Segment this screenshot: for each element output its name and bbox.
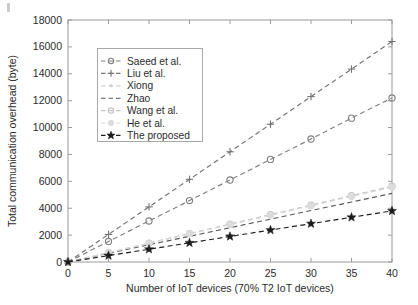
data-point-marker (308, 203, 314, 209)
x-axis-title: Number of IoT devices (70% T2 IoT device… (126, 282, 334, 294)
data-point-marker (105, 231, 112, 238)
data-point-marker (267, 120, 274, 127)
y-tick-label: 6000 (39, 175, 63, 187)
data-point-marker (186, 231, 192, 237)
data-point-marker (109, 84, 112, 87)
x-tick-label: 20 (224, 267, 236, 279)
legend-label: The proposed (127, 130, 190, 141)
data-point-marker (388, 38, 395, 45)
figure-container: 0510152025303540 02000400060008000100001… (0, 0, 418, 305)
data-point-marker (307, 93, 314, 100)
data-point-marker (185, 238, 194, 247)
x-tick-label: 25 (265, 267, 277, 279)
series-the-proposed (64, 206, 397, 266)
chart-legend[interactable]: Saeed et al.Liu et al.XiongZhaoWang et a… (98, 49, 203, 142)
legend-label: He et al. (127, 118, 165, 129)
x-tick-label: 15 (184, 267, 196, 279)
y-axis-tick-labels: 0200040006000800010000120001400016000180… (33, 14, 62, 268)
data-point-marker (145, 203, 152, 210)
x-axis-tick-labels: 0510152025303540 (65, 267, 398, 279)
data-point-marker (226, 232, 235, 241)
x-tick-label: 35 (346, 267, 358, 279)
x-tick-label: 30 (305, 267, 317, 279)
y-tick-label: 10000 (33, 121, 62, 133)
x-tick-label: 40 (386, 267, 398, 279)
y-tick-label: 12000 (33, 94, 62, 106)
data-point-marker (389, 184, 395, 190)
data-point-marker (307, 219, 316, 228)
data-point-marker (146, 218, 152, 224)
y-tick-label: 18000 (33, 14, 62, 26)
data-point-marker (227, 177, 233, 183)
data-point-marker (266, 225, 275, 234)
data-point-marker (226, 148, 233, 155)
legend-label: Zhao (127, 93, 151, 104)
y-axis-title: Total communication overhead (byte) (6, 55, 18, 227)
y-tick-label: 8000 (39, 148, 63, 160)
legend-label: Wang et al. (127, 105, 178, 116)
y-tick-label: 16000 (33, 40, 62, 52)
y-tick-label: 14000 (33, 67, 62, 79)
scan-artifact-mark (7, 3, 10, 12)
communication-overhead-line-chart: 0510152025303540 02000400060008000100001… (0, 0, 418, 305)
data-point-marker (348, 193, 354, 199)
data-point-marker (267, 212, 273, 218)
x-tick-label: 0 (65, 267, 71, 279)
data-point-marker (348, 65, 355, 72)
series-he-et-al (65, 184, 395, 265)
x-tick-label: 5 (106, 267, 112, 279)
data-point-marker (108, 120, 113, 125)
legend-label: Liu et al. (127, 68, 166, 79)
y-tick-label: 4000 (39, 202, 63, 214)
legend-label: Saeed et al. (127, 56, 181, 67)
data-point-marker (227, 222, 233, 228)
data-point-marker (347, 213, 356, 222)
x-tick-label: 10 (143, 267, 155, 279)
data-point-marker (348, 115, 354, 121)
data-point-marker (186, 176, 193, 183)
y-tick-label: 2000 (39, 229, 63, 241)
y-tick-label: 0 (56, 256, 62, 268)
legend-label: Xiong (127, 80, 153, 91)
